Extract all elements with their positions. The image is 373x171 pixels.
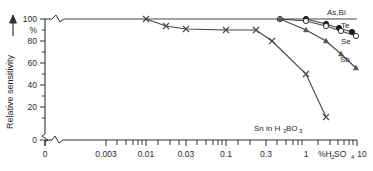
series-label-as-bi: As,Bi <box>327 8 346 17</box>
y-axis-title-group: Relative sensitivity <box>5 15 16 129</box>
x-axis-break <box>52 136 63 143</box>
y-axis-percent-label: % <box>29 25 37 35</box>
chart-svg: Relative sensitivity 100 <box>0 0 373 171</box>
chart-container: Relative sensitivity 100 <box>0 0 373 171</box>
x-unit-part1: %H <box>318 149 332 159</box>
y-tick-label-0: 0 <box>32 135 37 145</box>
x-unit-part2: SO <box>334 149 347 159</box>
x-tick-label-0.3: 0.3 <box>260 149 272 159</box>
x-tick-label-1: 1 <box>304 149 309 159</box>
sn-marker-6 <box>269 38 275 44</box>
y-tick-label-20: 20 <box>28 102 38 112</box>
y-axis: 100 % 80 60 40 20 0 <box>23 14 48 146</box>
se-marker-2 <box>303 18 308 23</box>
sn-marker-8 <box>323 114 329 120</box>
y-axis-arrow-head <box>10 15 17 23</box>
series-label-sn-group: Sn in H 3 BO 3 <box>254 124 303 134</box>
x-tick-label-0.1: 0.1 <box>220 149 232 159</box>
se-marker-5 <box>353 33 358 38</box>
x-tick-label-0.003: 0.003 <box>95 149 117 159</box>
y-tick-label-100: 100 <box>23 14 37 24</box>
series-label-se: Se <box>341 37 351 46</box>
x-tick-label-0: 0 <box>43 149 48 159</box>
sn-sub-3b: 3 <box>299 128 303 134</box>
se-marker-3 <box>323 23 328 28</box>
y-tick-label-40: 40 <box>28 80 38 90</box>
x-axis-unit-label: %H 2 SO 4 <box>318 149 355 160</box>
y-tick-label-60: 60 <box>28 58 38 68</box>
x-unit-sub-4: 4 <box>351 154 355 160</box>
x-tick-label-0.01: 0.01 <box>138 149 155 159</box>
x-axis: 0 0.003 0.01 0.03 0.1 0.3 1 10 %H 2 SO 4 <box>43 136 367 160</box>
series-label-sb: Sb <box>340 55 350 64</box>
sn-markers <box>143 16 329 120</box>
y-axis-title: Relative sensitivity <box>5 54 15 129</box>
x-tick-label-10: 10 <box>357 149 367 159</box>
series-sn: Sn in H 3 BO 3 <box>143 16 329 134</box>
x-tick-label-0.03: 0.03 <box>178 149 195 159</box>
sn-curve <box>146 19 326 117</box>
se-marker-4 <box>338 28 343 33</box>
series-label-sn: Sn in H <box>254 124 280 133</box>
sn-mid-bo: BO <box>286 124 298 133</box>
sn-marker-7 <box>303 71 309 77</box>
as-bi-line-break <box>52 15 64 22</box>
y-tick-label-80: 80 <box>28 36 38 46</box>
